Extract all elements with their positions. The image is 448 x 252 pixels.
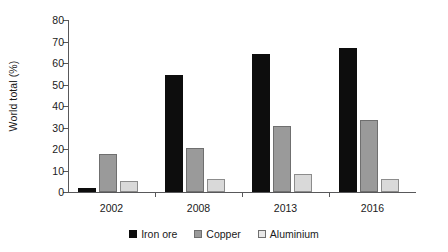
bar-iron-ore-2016 bbox=[339, 48, 357, 192]
bar-group bbox=[252, 20, 312, 192]
y-axis-tick-label: 20 bbox=[52, 143, 64, 155]
x-axis-tick-label: 2013 bbox=[256, 202, 316, 214]
x-axis-tick-label: 2002 bbox=[82, 202, 142, 214]
bar-group bbox=[339, 20, 399, 192]
chart-legend: Iron oreCopperAluminium bbox=[0, 228, 448, 240]
y-axis-tick-label: 80 bbox=[52, 14, 64, 26]
y-axis-tick-label: 60 bbox=[52, 57, 64, 69]
bar-copper-2013 bbox=[273, 126, 291, 192]
y-axis-spine bbox=[68, 20, 69, 192]
y-axis-tick-label: 30 bbox=[52, 122, 64, 134]
x-axis-tick-label: 2016 bbox=[343, 202, 403, 214]
legend-label: Iron ore bbox=[141, 228, 177, 240]
bar-iron-ore-2013 bbox=[252, 54, 270, 192]
x-axis-tick bbox=[155, 192, 156, 197]
legend-swatch-icon bbox=[194, 230, 202, 238]
bar-group bbox=[165, 20, 225, 192]
legend-swatch-icon bbox=[129, 230, 137, 238]
y-axis-tick-label: 40 bbox=[52, 100, 64, 112]
legend-label: Aluminium bbox=[270, 228, 319, 240]
legend-item-copper: Copper bbox=[194, 228, 240, 240]
bar-aluminium-2002 bbox=[120, 181, 138, 192]
y-axis-tick-label: 70 bbox=[52, 36, 64, 48]
bar-aluminium-2016 bbox=[381, 179, 399, 192]
legend-item-iron-ore: Iron ore bbox=[129, 228, 177, 240]
legend-item-aluminium: Aluminium bbox=[258, 228, 319, 240]
y-axis-tick-label: 50 bbox=[52, 79, 64, 91]
bar-copper-2008 bbox=[186, 148, 204, 192]
x-axis-tick bbox=[242, 192, 243, 197]
y-axis-title: World total (%) bbox=[0, 0, 26, 192]
y-axis-tick-label: 0 bbox=[58, 186, 64, 198]
bar-iron-ore-2008 bbox=[165, 75, 183, 192]
legend-swatch-icon bbox=[258, 230, 266, 238]
legend-label: Copper bbox=[206, 228, 240, 240]
bar-aluminium-2008 bbox=[207, 179, 225, 192]
x-axis-tick-label: 2008 bbox=[169, 202, 229, 214]
bar-iron-ore-2002 bbox=[78, 188, 96, 192]
bar-chart-figure: World total (%) 01020304050607080 200220… bbox=[0, 0, 448, 252]
bar-copper-2002 bbox=[99, 154, 117, 192]
bar-aluminium-2013 bbox=[294, 174, 312, 192]
y-axis-tick-label: 10 bbox=[52, 165, 64, 177]
plot-area: 01020304050607080 2002200820132016 bbox=[68, 20, 416, 192]
bar-group bbox=[78, 20, 138, 192]
x-axis-tick bbox=[329, 192, 330, 197]
bar-copper-2016 bbox=[360, 120, 378, 192]
